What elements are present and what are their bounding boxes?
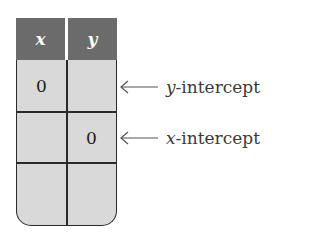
- annotation-var: y: [166, 77, 176, 97]
- cell-r2-y: [67, 163, 116, 214]
- cell-r0-x: 0: [17, 60, 66, 111]
- table-body: 0 0: [16, 60, 117, 226]
- left-arrow-icon: [120, 131, 158, 145]
- cell-r2-x: [17, 163, 66, 214]
- annotation-text: -intercept: [176, 128, 260, 148]
- left-arrow-icon: [120, 80, 158, 94]
- header-y: y: [68, 18, 117, 60]
- x-intercept-annotation: x-intercept: [120, 127, 260, 149]
- annotation-var: x: [166, 128, 176, 148]
- header-x: x: [16, 18, 65, 60]
- annotation-text: -intercept: [176, 77, 260, 97]
- cell-r1-x: [17, 112, 66, 163]
- cell-r0-y: [67, 60, 116, 111]
- y-intercept-annotation: y-intercept: [120, 76, 260, 98]
- cell-r1-y: 0: [67, 112, 116, 163]
- xy-table: x y 0 0: [16, 18, 117, 226]
